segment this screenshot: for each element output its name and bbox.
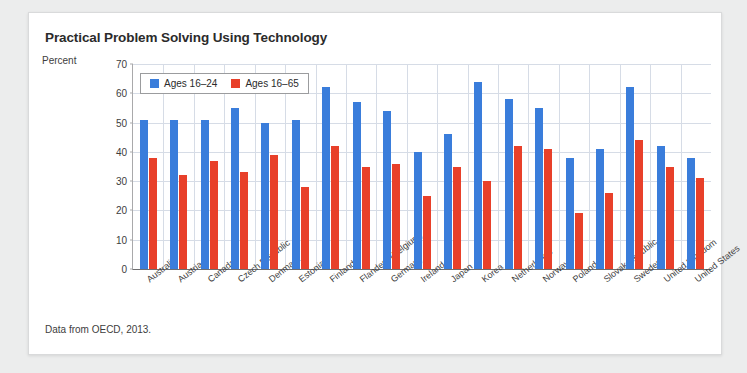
bar <box>514 146 522 269</box>
y-axis-tick-label: 0 <box>121 264 127 275</box>
bar-group: Norway <box>528 64 558 269</box>
bar <box>666 167 674 270</box>
bar <box>414 152 422 269</box>
bar <box>483 181 491 269</box>
bar <box>301 187 309 269</box>
bar <box>474 82 482 269</box>
bar <box>392 164 400 269</box>
bar-group: Slovak Republic <box>589 64 619 269</box>
bar-group: Germany <box>376 64 406 269</box>
y-axis-tick-label: 40 <box>116 146 127 157</box>
bar <box>292 120 300 269</box>
bar <box>270 155 278 269</box>
bar <box>331 146 339 269</box>
bar <box>626 87 634 269</box>
bar-group: Korea <box>468 64 498 269</box>
bar-group: Estonia <box>285 64 315 269</box>
y-axis-tick-label: 50 <box>116 117 127 128</box>
bar-group: Canada <box>194 64 224 269</box>
bar <box>453 167 461 270</box>
bar-group: Denmark <box>255 64 285 269</box>
bar <box>696 178 704 269</box>
bar <box>231 108 239 269</box>
bar-group: United States <box>681 64 711 269</box>
bar-groups: AustraliaAustriaCanadaCzech RepublicDenm… <box>133 64 711 269</box>
bar-group: Australia <box>133 64 163 269</box>
bar <box>322 87 330 269</box>
legend-label: Ages 16–24 <box>164 78 217 89</box>
plot-area: 010203040506070 AustraliaAustriaCanadaCz… <box>132 64 711 270</box>
legend-item: Ages 16–65 <box>231 78 298 89</box>
bar <box>201 120 209 269</box>
chart-card: Practical Problem Solving Using Technolo… <box>28 12 722 355</box>
bar <box>566 158 574 269</box>
y-axis-tick-label: 30 <box>116 176 127 187</box>
bar <box>596 149 604 269</box>
bar <box>261 123 269 269</box>
bar-group: Ireland <box>407 64 437 269</box>
bar <box>635 140 643 269</box>
bar <box>444 134 452 269</box>
bar-group: Netherlands <box>498 64 528 269</box>
bar <box>505 99 513 269</box>
bar <box>544 149 552 269</box>
bar <box>423 196 431 269</box>
bar <box>535 108 543 269</box>
bar <box>170 120 178 269</box>
bar <box>605 193 613 269</box>
bar <box>210 161 218 269</box>
y-axis-title: Percent <box>42 55 76 66</box>
bar <box>240 172 248 269</box>
bar-group: Flanders (Belgium) <box>346 64 376 269</box>
y-axis-tick-label: 10 <box>116 234 127 245</box>
bar <box>383 111 391 269</box>
legend-label: Ages 16–65 <box>245 78 298 89</box>
bar-group: Poland <box>559 64 589 269</box>
legend-swatch-red <box>231 79 240 88</box>
y-axis-tick-label: 60 <box>116 88 127 99</box>
bar-group: Sweden <box>620 64 650 269</box>
bar-group: United Kingdom <box>650 64 680 269</box>
y-axis-tick-label: 70 <box>116 59 127 70</box>
bar <box>657 146 665 269</box>
source-note: Data from OECD, 2013. <box>45 324 151 335</box>
bar-group: Czech Republic <box>224 64 254 269</box>
bar <box>179 175 187 269</box>
bar <box>362 167 370 270</box>
chart-title: Practical Problem Solving Using Technolo… <box>45 30 327 45</box>
bar-group: Finland <box>316 64 346 269</box>
chart-legend: Ages 16–24Ages 16–65 <box>140 73 309 94</box>
bar <box>353 102 361 269</box>
bar <box>140 120 148 269</box>
legend-swatch-blue <box>150 79 159 88</box>
y-axis-tick-label: 20 <box>116 205 127 216</box>
bar <box>149 158 157 269</box>
legend-item: Ages 16–24 <box>150 78 217 89</box>
bar <box>575 213 583 269</box>
bar-group: Japan <box>437 64 467 269</box>
bar <box>687 158 695 269</box>
bar-group: Austria <box>163 64 193 269</box>
